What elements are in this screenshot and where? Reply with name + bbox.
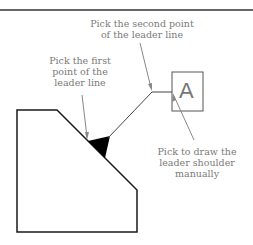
label-line: manually: [152, 168, 242, 179]
label-line: leader shoulder: [152, 157, 242, 168]
label-first-point: Pick the first point of the leader line: [40, 55, 120, 88]
label-line: point of the: [40, 66, 120, 77]
label-second-point: Pick the second point of the leader line: [82, 18, 202, 40]
label-line: Pick the second point: [82, 18, 202, 29]
label-line: of the leader line: [82, 29, 202, 40]
label-line: Pick the first: [40, 55, 120, 66]
callout-first-point: [82, 95, 87, 137]
leader-diagram: A Pick the second point of the leader li…: [0, 0, 253, 245]
callout-second-point: [140, 43, 151, 88]
label-line: Pick to draw the: [152, 146, 242, 157]
label-shoulder: Pick to draw the leader shoulder manuall…: [152, 146, 242, 179]
part-outline: [17, 110, 137, 232]
leader-line: [108, 92, 172, 138]
datum-letter: A: [179, 78, 194, 104]
label-line: leader line: [40, 77, 120, 88]
